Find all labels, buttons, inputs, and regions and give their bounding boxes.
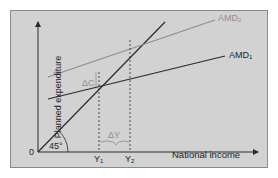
amd1-line bbox=[48, 56, 225, 99]
amd2-line bbox=[48, 20, 215, 77]
y1-tick-label: Y1 bbox=[94, 154, 103, 164]
amd1-label: AMD1 bbox=[229, 50, 252, 60]
y-axis-label: Planned expenditure bbox=[53, 47, 63, 147]
y2-tick-label: Y2 bbox=[125, 154, 134, 164]
delta-y-brace bbox=[100, 141, 129, 145]
delta-c-label: ΔC bbox=[82, 78, 95, 88]
angle-label: 45° bbox=[49, 141, 63, 151]
delta-y-label: ΔY bbox=[108, 130, 120, 140]
origin-label: 0 bbox=[29, 147, 34, 157]
x-axis-label: National income bbox=[172, 149, 240, 160]
amd2-label: AMD2 bbox=[218, 13, 241, 23]
